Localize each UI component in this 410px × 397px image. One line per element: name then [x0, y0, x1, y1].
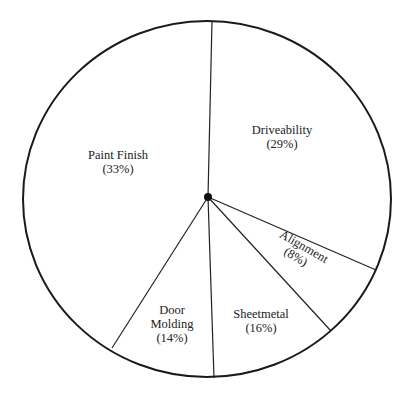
- pct-paint-finish: (33%): [102, 162, 133, 176]
- pct-driveability: (29%): [266, 137, 297, 151]
- label-sheetmetal: Sheetmetal: [233, 307, 289, 321]
- label-driveability: Driveability: [252, 123, 313, 137]
- center-dot: [204, 193, 212, 201]
- label-door: Door: [159, 303, 186, 317]
- pie-chart: Driveability (29%) Alignment (8%) Sheetm…: [0, 0, 410, 397]
- label-molding: Molding: [150, 317, 194, 331]
- pct-door-molding: (14%): [156, 331, 187, 345]
- pct-sheetmetal: (16%): [245, 321, 276, 335]
- label-paint-finish: Paint Finish: [88, 148, 149, 162]
